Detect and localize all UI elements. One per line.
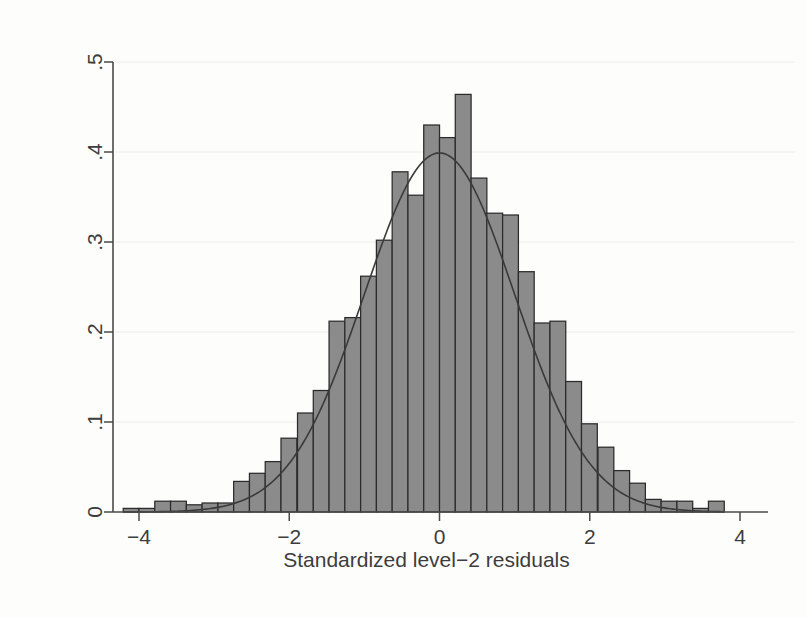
histogram-bar — [424, 125, 440, 512]
x-tick-label: 2 — [584, 525, 596, 548]
histogram-bar — [518, 272, 534, 512]
histogram-bar — [614, 471, 630, 512]
x-tick-label: −4 — [127, 525, 151, 548]
histogram-bar — [234, 481, 250, 512]
figure-canvas: 0.1.2.3.4.5−4−2024 Density Standardized … — [0, 0, 806, 618]
x-axis-title: Standardized level−2 residuals — [113, 548, 740, 572]
y-tick-label: .1 — [83, 413, 106, 431]
histogram-bar — [630, 483, 646, 512]
histogram-bar — [598, 447, 614, 512]
histogram-bar — [408, 195, 424, 512]
histogram-bar — [361, 276, 377, 512]
histogram-bar — [534, 323, 550, 512]
y-axis-title-wrap: Density — [56, 232, 86, 382]
histogram-bar — [440, 138, 456, 512]
histogram-bar — [281, 438, 297, 512]
histogram-bar — [471, 178, 487, 512]
y-tick-label: .4 — [83, 143, 106, 161]
x-tick-label: 0 — [434, 525, 446, 548]
y-tick-label: 0 — [83, 506, 106, 518]
x-tick-label: −2 — [277, 525, 301, 548]
histogram-bar — [345, 318, 361, 512]
histogram-bar — [155, 501, 171, 512]
histogram-bar — [329, 321, 345, 512]
histogram-bar — [503, 215, 519, 512]
histogram-bar — [550, 321, 566, 512]
histogram-plot: 0.1.2.3.4.5−4−2024 — [0, 0, 806, 618]
histogram-bars-group — [123, 94, 724, 512]
x-tick-label: 4 — [734, 525, 746, 548]
histogram-bar — [661, 501, 677, 512]
histogram-bar — [376, 240, 392, 512]
histogram-bar — [487, 213, 503, 512]
histogram-bar — [455, 94, 471, 512]
y-tick-label: .5 — [83, 53, 106, 71]
histogram-bar — [392, 172, 408, 512]
histogram-bar — [708, 501, 724, 512]
histogram-bar — [581, 424, 597, 512]
